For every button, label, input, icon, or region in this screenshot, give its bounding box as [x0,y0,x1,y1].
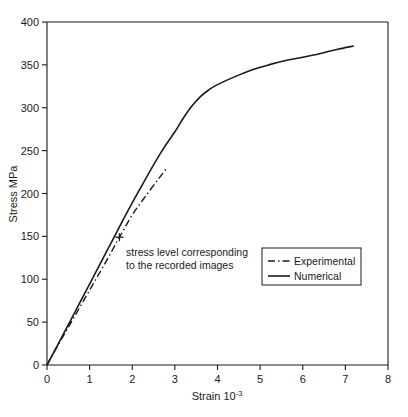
annotation-line-2: to the recorded images [126,259,233,271]
y-tick-label: 250 [21,145,39,157]
x-tick-label: 0 [44,373,50,385]
y-tick-label: 200 [21,188,39,200]
x-axis-label-base: Strain 10 [192,390,236,402]
annotation-stress-level: stress level corresponding to the record… [126,246,248,271]
x-tick-label: 5 [257,373,263,385]
x-tick-label: 4 [214,373,220,385]
y-tick-label: 0 [33,359,39,371]
series-line-numerical [47,46,354,365]
axes [47,22,388,365]
series-group [47,46,354,365]
y-tick-label: 50 [27,316,39,328]
y-tick-label: 300 [21,102,39,114]
y-tick-label: 100 [21,273,39,285]
y-tick-group: 050100150200250300350400 [21,16,47,371]
legend-label-experimental: Experimental [294,255,355,267]
stress-level-marker [115,233,123,241]
x-tick-label: 6 [300,373,306,385]
chart-svg: 050100150200250300350400 012345678 Stres… [0,0,408,417]
stress-strain-chart: 050100150200250300350400 012345678 Stres… [0,0,408,417]
x-tick-label: 3 [172,373,178,385]
x-tick-label: 1 [87,373,93,385]
x-axis-label-exponent: -3 [236,389,243,398]
x-tick-label: 2 [129,373,135,385]
x-tick-label: 7 [342,373,348,385]
legend-label-numerical: Numerical [294,270,341,282]
x-axis-label: Strain 10-3 [192,389,243,402]
y-axis-label: Stress MPa [7,165,19,223]
annotation-line-1: stress level corresponding [126,246,248,258]
x-tick-label: 8 [385,373,391,385]
y-tick-label: 350 [21,59,39,71]
y-tick-label: 400 [21,16,39,28]
y-tick-label: 150 [21,230,39,242]
x-tick-group: 012345678 [44,365,391,385]
legend: Experimental Numerical [262,248,361,285]
